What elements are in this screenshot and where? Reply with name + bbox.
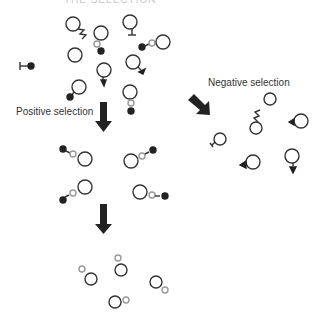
cell-t-stem <box>123 15 137 35</box>
selection-diagram <box>0 0 321 327</box>
neg-cell-plain <box>264 93 276 105</box>
final-cell-4 <box>109 296 129 308</box>
cell-zigzag <box>66 17 86 39</box>
negative-selection-label: Negative selection <box>208 77 290 88</box>
ligand-t <box>20 62 34 70</box>
cell-chain-down-2 <box>123 85 137 114</box>
pos-complex-1 <box>60 146 92 166</box>
negative-selection-arrow <box>188 94 210 115</box>
cell-chain-down <box>94 26 108 54</box>
final-cell-1 <box>79 266 97 285</box>
final-cell-3 <box>150 276 168 293</box>
cell-arrow-receptor <box>126 55 145 74</box>
neg-cell-knob-down <box>285 149 299 173</box>
neg-cell-knob-left <box>289 114 308 128</box>
pos-complex-4 <box>133 185 168 199</box>
positive-selection-arrow <box>95 102 112 132</box>
final-cell-2 <box>115 255 127 276</box>
neg-cell-zigzag <box>250 110 262 134</box>
cell-knob-lowerleft <box>67 80 86 100</box>
neg-cell-arrow-left <box>240 155 260 169</box>
positive-selection-label: Positive selection <box>16 106 93 117</box>
neg-cell-t-left <box>210 133 226 147</box>
pos-complex-2 <box>124 147 156 168</box>
cell-knob-down <box>97 63 111 86</box>
pos-complex-3 <box>60 180 92 203</box>
final-arrow <box>95 204 112 234</box>
cell-chain-left <box>139 35 170 50</box>
cell-plain <box>68 48 82 62</box>
